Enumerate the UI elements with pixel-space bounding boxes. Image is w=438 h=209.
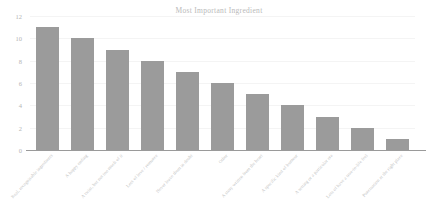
x-axis-label: A story written from the heart (220, 153, 263, 199)
x-axis-label: Punctuation at the right place (361, 153, 403, 198)
bar-slot (240, 16, 275, 150)
bar-slot (310, 16, 345, 150)
bar (351, 128, 373, 150)
x-axis-labels: Real, recognisable ingredientsA happy en… (30, 151, 415, 209)
x-axis-label: A setting or a particular era (293, 153, 333, 195)
x-axis-label: A twist, but not too much of it (80, 153, 124, 199)
x-axis-label: Lots of love / romance (125, 153, 159, 188)
bar (386, 139, 408, 150)
x-axis-label: A happy ending (64, 153, 88, 179)
bar (36, 27, 58, 150)
bar-slot (135, 16, 170, 150)
bar-slot (65, 16, 100, 150)
bar-slot (30, 16, 65, 150)
bar-series (30, 16, 415, 150)
bar-slot (345, 16, 380, 150)
y-axis-tick-2: 2 (19, 124, 22, 131)
y-axis-tick-0: 0 (19, 147, 22, 154)
x-axis-label: Other (217, 153, 228, 164)
bar-slot (170, 16, 205, 150)
y-axis-tick-4: 4 (19, 102, 22, 109)
y-axis-tick-10: 10 (16, 35, 23, 42)
chart-title: Most Important Ingredient (0, 6, 438, 15)
bar (71, 38, 93, 150)
y-axis-tick-12: 12 (16, 13, 23, 20)
bar (106, 50, 128, 151)
bar-slot (100, 16, 135, 150)
x-axis-label: A specific kind of humour (260, 153, 298, 194)
bar (176, 72, 198, 150)
bar-chart: Most Important Ingredient 024681012 Real… (0, 0, 438, 209)
bar-slot (380, 16, 415, 150)
bar-slot (205, 16, 240, 150)
y-axis-tick-8: 8 (19, 57, 22, 64)
y-axis-tick-6: 6 (19, 80, 22, 87)
bar (281, 105, 303, 150)
bar (141, 61, 163, 150)
bar (211, 83, 233, 150)
bar (246, 94, 268, 150)
x-axis-label: Never leave them in doubt (155, 153, 194, 194)
bar-slot (275, 16, 310, 150)
bar (316, 117, 338, 151)
